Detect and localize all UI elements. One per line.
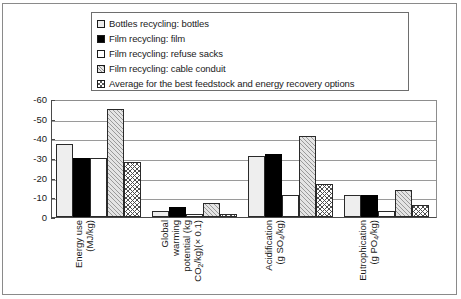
x-label-eutrophication-line2: (g PO4/kg) bbox=[368, 220, 380, 299]
bar-chart-figure: Bottles recycling: bottles Film recyclin… bbox=[0, 0, 461, 299]
bar-film-recycling-film bbox=[73, 158, 90, 217]
legend-item-label: Bottles recycling: bottles bbox=[109, 18, 209, 29]
bar-film-recycling-cable-conduit bbox=[395, 190, 412, 218]
y-tick-mark bbox=[51, 139, 55, 140]
x-label-energy-use-line2: (MJ/kg) bbox=[84, 220, 96, 299]
y-tick-mark bbox=[51, 218, 55, 219]
legend-item-average-best-feedstock: Average for the best feedstock and energ… bbox=[97, 76, 404, 91]
bar-film-recycling-refuse-sacks bbox=[282, 195, 299, 217]
plot-area bbox=[51, 100, 437, 218]
legend-item-label: Average for the best feedstock and energ… bbox=[109, 78, 354, 89]
bar-bottles-recycling-bottles bbox=[248, 156, 265, 217]
bar-average-best-feedstock bbox=[220, 214, 237, 217]
bar-average-best-feedstock bbox=[412, 205, 429, 217]
bar-average-best-feedstock bbox=[316, 184, 333, 217]
legend-item-label: Film recycling: cable conduit bbox=[109, 63, 225, 74]
bar-film-recycling-refuse-sacks bbox=[186, 214, 203, 217]
y-tick-mark bbox=[51, 159, 55, 160]
bar-film-recycling-cable-conduit bbox=[107, 109, 124, 217]
legend-item-label: Film recycling: refuse sacks bbox=[109, 48, 223, 59]
y-tick-label: -40 bbox=[21, 134, 47, 144]
white-swatch-icon bbox=[97, 50, 105, 58]
chart-legend: Bottles recycling: bottles Film recyclin… bbox=[91, 12, 409, 91]
y-tick-label: -60 bbox=[21, 95, 47, 105]
legend-item-film-recycling-film: Film recycling: film bbox=[97, 31, 404, 46]
y-tick-label: 0 bbox=[21, 213, 47, 223]
bar-bottles-recycling-bottles bbox=[344, 195, 361, 217]
bar-group-energy-use bbox=[56, 101, 146, 217]
y-axis-tick-labels: -60 -50 -40 -30 -20 -10 0 bbox=[17, 100, 47, 218]
y-tick-label: -10 bbox=[21, 193, 47, 203]
cross-hatch-swatch-icon bbox=[97, 80, 105, 88]
bar-film-recycling-film bbox=[265, 154, 282, 217]
bar-film-recycling-refuse-sacks bbox=[378, 211, 395, 217]
x-label-gwp-line4: CO2/kg)(× 0.1) bbox=[192, 220, 204, 299]
y-tick-mark bbox=[51, 120, 55, 121]
bar-film-recycling-cable-conduit bbox=[299, 136, 316, 217]
legend-item-film-recycling-refuse-sacks: Film recycling: refuse sacks bbox=[97, 46, 404, 61]
y-tick-label: -20 bbox=[21, 174, 47, 184]
y-tick-label: -30 bbox=[21, 154, 47, 164]
diagonal-swatch-icon bbox=[97, 65, 105, 73]
bar-group-global-warming-potential bbox=[152, 101, 242, 217]
y-tick-mark bbox=[51, 100, 55, 101]
bar-film-recycling-film bbox=[361, 195, 378, 217]
x-axis-category-labels: Energy use (MJ/kg) Global warming potent… bbox=[51, 220, 437, 299]
black-swatch-icon bbox=[97, 35, 105, 43]
y-tick-mark bbox=[51, 179, 55, 180]
bar-film-recycling-refuse-sacks bbox=[90, 158, 107, 217]
legend-item-label: Film recycling: film bbox=[109, 33, 185, 44]
y-tick-label: -50 bbox=[21, 115, 47, 125]
x-label-acidification-line2: (g SO4/kg) bbox=[274, 220, 286, 299]
bar-film-recycling-film bbox=[169, 207, 186, 217]
bar-group-eutrophication bbox=[344, 101, 434, 217]
dotted-swatch-icon bbox=[97, 20, 105, 28]
bar-film-recycling-cable-conduit bbox=[203, 203, 220, 217]
chart-frame: Bottles recycling: bottles Film recyclin… bbox=[2, 3, 457, 295]
legend-item-film-recycling-cable-conduit: Film recycling: cable conduit bbox=[97, 61, 404, 76]
bar-bottles-recycling-bottles bbox=[56, 144, 73, 217]
bar-bottles-recycling-bottles bbox=[152, 211, 169, 217]
y-tick-mark bbox=[51, 198, 55, 199]
bar-group-acidification bbox=[248, 101, 338, 217]
legend-item-bottles-recycling-bottles: Bottles recycling: bottles bbox=[97, 16, 404, 31]
bar-average-best-feedstock bbox=[124, 162, 141, 217]
